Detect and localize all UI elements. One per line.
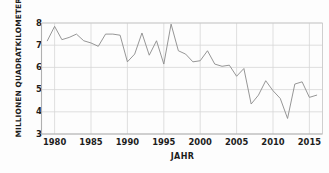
data-series-line — [47, 24, 316, 118]
x-axis-tick-label: 2015 — [287, 138, 329, 146]
x-axis-tick-labels: 19801985199019952000200520102015 — [0, 138, 329, 152]
gridlines — [42, 23, 323, 134]
line-chart: MILLIONEN QUADRATKILOMETER 345678 198019… — [0, 0, 329, 173]
plot-frame — [42, 23, 323, 134]
x-axis-title: JAHR — [40, 152, 325, 161]
